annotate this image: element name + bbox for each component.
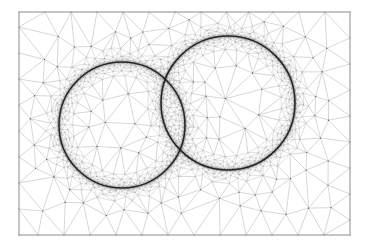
mesh-canvas	[0, 0, 369, 248]
mesh-figure	[0, 0, 369, 248]
